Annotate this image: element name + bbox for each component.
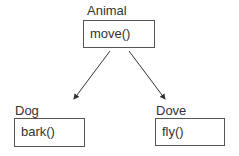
inheritance-arrows [0, 0, 239, 156]
arrow-animal-to-dove [129, 51, 165, 99]
arrow-animal-to-dog [74, 51, 110, 99]
